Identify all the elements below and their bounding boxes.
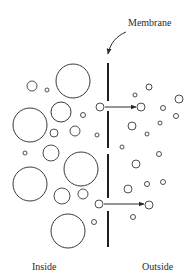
particle-inside <box>51 214 85 248</box>
particle-inside <box>45 88 49 92</box>
particle-inside <box>27 81 37 91</box>
particle-outside <box>133 93 137 97</box>
particle-outside <box>175 95 183 103</box>
particle-inside <box>13 108 47 142</box>
inside-label: Inside <box>32 262 56 272</box>
particle-inside <box>43 145 59 161</box>
diffusion-diagram <box>0 0 192 275</box>
particle-outside <box>146 84 152 90</box>
crossing-particles <box>95 103 104 208</box>
particle-inside <box>50 129 58 137</box>
particle-inside <box>95 133 99 137</box>
particle-outside <box>124 185 132 193</box>
particle-inside <box>81 113 86 118</box>
inside-particles <box>13 64 99 248</box>
outside-label: Outside <box>142 262 173 272</box>
particle-inside <box>92 220 97 225</box>
particle-inside <box>78 189 88 199</box>
particle-outside <box>137 103 145 111</box>
particle-outside <box>157 152 162 157</box>
particle-outside <box>120 145 124 149</box>
particle-crossing <box>96 103 104 111</box>
membrane-pointer-arrow <box>108 32 126 54</box>
particle-inside <box>64 152 98 186</box>
particle-outside <box>145 201 153 209</box>
particle-outside <box>161 180 166 185</box>
particle-inside <box>23 151 27 155</box>
particle-outside <box>158 121 162 125</box>
particle-outside <box>132 160 140 168</box>
particle-outside <box>145 182 150 187</box>
particle-inside <box>51 102 71 122</box>
particle-outside <box>161 106 166 111</box>
particle-inside <box>13 167 47 201</box>
particle-inside <box>54 188 70 204</box>
outside-particles <box>120 84 183 220</box>
particle-outside <box>174 114 179 119</box>
particle-crossing <box>95 200 103 208</box>
membrane-label: Membrane <box>128 18 171 28</box>
particle-outside <box>131 215 136 220</box>
particle-outside <box>145 132 149 136</box>
particle-inside <box>56 64 90 98</box>
particle-inside <box>70 126 80 136</box>
particle-outside <box>128 122 136 130</box>
